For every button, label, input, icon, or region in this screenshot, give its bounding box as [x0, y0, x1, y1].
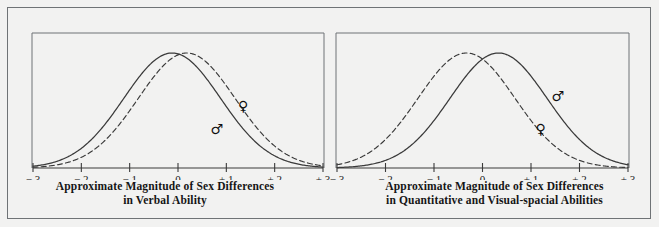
panel-quantitative-abilities: − 3− 2− 10+ 1+ 2+ 3♂♀ Approximate Magnit… — [330, 0, 659, 227]
caption-line-2: in Verbal Ability — [0, 194, 330, 208]
axis-tick-label: + 3 — [316, 173, 330, 180]
axis-tick-label: + 2 — [572, 173, 586, 180]
quantitative-abilities-plot: − 3− 2− 10+ 1+ 2+ 3♂♀ — [330, 0, 659, 180]
caption-quantitative-abilities: Approximate Magnitude of Sex Differences… — [330, 180, 659, 207]
axis-tick-label: + 3 — [621, 173, 636, 180]
caption-verbal-ability: Approximate Magnitude of Sex Differences… — [0, 180, 330, 207]
distribution-curve-females — [33, 53, 323, 167]
axis-tick-label: + 1 — [219, 173, 233, 180]
axis-tick-label: 0 — [175, 173, 181, 180]
panel-verbal-ability: − 3− 2− 10+ 1+ 2+ 3♀♂ Approximate Magnit… — [0, 0, 330, 227]
male-symbol: ♂ — [210, 121, 223, 137]
axis-tick-label: + 2 — [267, 173, 281, 180]
axis-tick-label: − 2 — [74, 173, 88, 180]
axis-tick-label: − 3 — [26, 173, 41, 180]
plot-frame — [336, 33, 629, 168]
axis-tick-label: − 2 — [378, 173, 392, 180]
axis-tick-label: − 1 — [122, 173, 136, 180]
axis-tick-label: − 3 — [330, 173, 345, 180]
caption-line-1: Approximate Magnitude of Sex Differences — [330, 180, 659, 194]
axis-tick-label: − 1 — [427, 173, 441, 180]
verbal-ability-plot: − 3− 2− 10+ 1+ 2+ 3♀♂ — [0, 0, 330, 180]
caption-line-2: in Quantitative and Visual-spacial Abili… — [330, 194, 659, 208]
distribution-curve-males — [337, 53, 628, 168]
female-symbol: ♀ — [238, 98, 248, 114]
caption-line-1: Approximate Magnitude of Sex Differences — [0, 180, 330, 194]
distribution-curve-females — [337, 53, 628, 168]
figure-container: − 3− 2− 10+ 1+ 2+ 3♀♂ Approximate Magnit… — [0, 0, 659, 227]
female-symbol: ♀ — [536, 121, 546, 137]
axis-tick-label: + 1 — [524, 173, 538, 180]
panels-wrapper: − 3− 2− 10+ 1+ 2+ 3♀♂ Approximate Magnit… — [0, 0, 659, 227]
axis-tick-label: 0 — [480, 173, 486, 180]
male-symbol: ♂ — [551, 88, 564, 104]
